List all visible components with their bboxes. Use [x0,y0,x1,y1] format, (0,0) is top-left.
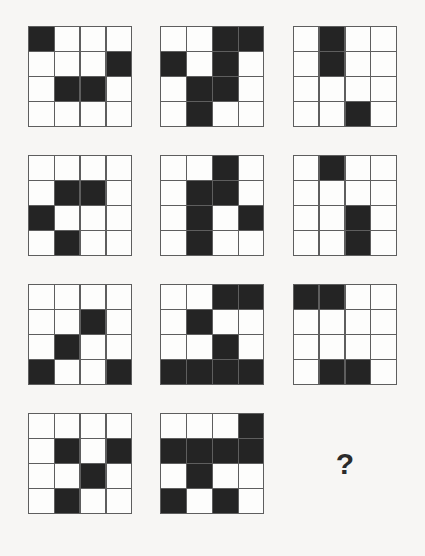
square-r2-c0-empty [294,206,318,230]
square-r3-c1-empty [320,102,344,126]
square-r1-c1-empty [55,310,79,334]
square-r2-c2-filled [81,77,105,101]
square-r3-c1-filled [187,360,211,384]
puzzle-slot-9 [279,270,411,399]
square-r0-c1-filled [320,285,344,309]
square-r1-c0-empty [294,310,318,334]
square-r0-c2-filled [213,285,237,309]
square-r0-c3-filled [239,27,263,51]
square-r1-c3-empty [239,310,263,334]
square-r2-c3-filled [239,206,263,230]
puzzle-slot-8 [146,270,278,399]
square-r2-c2-empty [213,464,237,488]
square-r0-c1-empty [187,414,211,438]
square-r2-c2-filled [81,464,105,488]
panel-r3c2 [160,284,264,385]
square-r0-c0-empty [29,414,53,438]
square-r1-c1-filled [55,181,79,205]
square-r2-c0-empty [294,77,318,101]
square-r2-c1-filled [187,464,211,488]
square-r0-c3-empty [371,156,395,180]
panel-r2c3 [293,155,397,256]
puzzle-slot-3 [279,12,411,141]
square-r2-c2-empty [81,335,105,359]
puzzle-slot-10 [14,399,146,528]
square-r2-c0-empty [161,206,185,230]
panel-r1c2 [160,26,264,127]
square-r2-c2-filled [213,77,237,101]
square-r1-c0-empty [161,181,185,205]
square-r1-c1-filled [187,439,211,463]
square-r0-c0-empty [29,285,53,309]
square-r3-c3-empty [371,231,395,255]
square-r2-c2-filled [346,206,370,230]
puzzle-slot-12: ? [279,399,411,528]
square-r2-c2-filled [213,335,237,359]
square-r3-c0-filled [29,360,53,384]
square-r0-c0-empty [29,156,53,180]
panel-r2c2 [160,155,264,256]
square-r0-c3-filled [239,285,263,309]
square-r0-c3-empty [371,27,395,51]
square-r2-c3-empty [107,335,131,359]
square-r2-c3-empty [239,335,263,359]
square-r2-c3-empty [371,77,395,101]
square-r3-c2-filled [346,102,370,126]
panel-r4c1 [28,413,132,514]
square-r2-c0-empty [29,77,53,101]
square-r1-c0-empty [294,52,318,76]
square-r3-c3-empty [371,102,395,126]
square-r1-c3-empty [371,310,395,334]
square-r2-c2-empty [81,206,105,230]
panel-r3c3 [293,284,397,385]
square-r2-c3-empty [107,77,131,101]
square-r1-c1-filled [55,439,79,463]
square-r0-c1-empty [55,285,79,309]
square-r2-c1-empty [320,206,344,230]
square-r0-c1-empty [187,27,211,51]
square-r0-c1-empty [55,414,79,438]
square-r1-c2-filled [213,181,237,205]
square-r2-c2-empty [346,77,370,101]
square-r2-c1-filled [55,335,79,359]
square-r0-c1-empty [55,27,79,51]
square-r1-c3-empty [371,52,395,76]
square-r3-c0-filled [161,360,185,384]
square-r1-c2-empty [81,439,105,463]
square-r3-c1-empty [55,360,79,384]
square-r3-c0-empty [294,102,318,126]
square-r0-c0-filled [294,285,318,309]
square-r3-c2-empty [81,360,105,384]
square-r0-c0-empty [161,27,185,51]
square-r0-c0-empty [161,156,185,180]
square-r2-c0-filled [29,206,53,230]
square-r0-c0-empty [161,414,185,438]
square-r3-c2-empty [213,231,237,255]
square-r0-c2-empty [346,27,370,51]
square-r0-c2-empty [346,285,370,309]
square-r1-c3-empty [107,310,131,334]
square-r2-c1-empty [320,77,344,101]
square-r3-c2-empty [213,102,237,126]
square-r3-c2-empty [81,489,105,513]
square-r3-c3-filled [239,360,263,384]
square-r1-c1-filled [320,52,344,76]
square-r3-c1-filled [187,231,211,255]
square-r2-c1-filled [187,77,211,101]
square-r2-c0-empty [29,335,53,359]
square-r0-c3-empty [107,156,131,180]
square-r3-c1-filled [55,231,79,255]
square-r2-c3-empty [107,206,131,230]
square-r3-c3-empty [239,231,263,255]
square-r3-c0-empty [29,489,53,513]
square-r3-c0-empty [294,360,318,384]
square-r1-c3-filled [239,439,263,463]
square-r0-c3-empty [239,156,263,180]
puzzle-slot-7 [14,270,146,399]
square-r1-c3-filled [107,439,131,463]
square-r0-c0-empty [294,156,318,180]
square-r1-c1-empty [55,52,79,76]
square-r3-c1-filled [55,489,79,513]
square-r0-c1-filled [320,156,344,180]
square-r0-c0-empty [161,285,185,309]
